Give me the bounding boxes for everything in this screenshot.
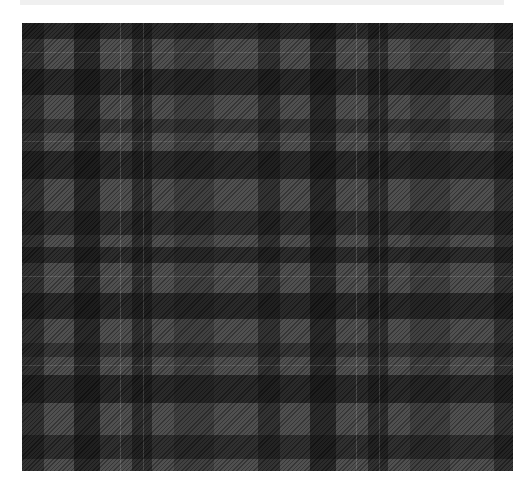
- twill-texture: [22, 23, 513, 471]
- caption-strip: [20, 0, 504, 5]
- tartan-image: [22, 23, 513, 471]
